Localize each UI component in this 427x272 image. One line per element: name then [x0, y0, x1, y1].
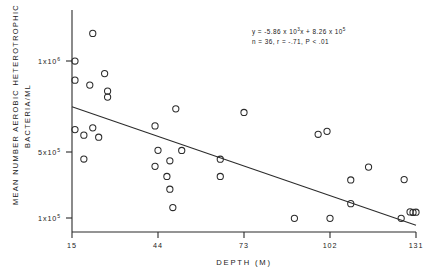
- data-point: [217, 173, 223, 179]
- y-tick-label-2: 1x105: [38, 213, 61, 223]
- y-axis-label: MEAN NUMBER AEROBIC HETEROTROPHIC BACTER…: [11, 4, 32, 205]
- data-point: [217, 156, 223, 162]
- regression-annotation: y = -5.86 x 103x + 8.26 x 105 n = 36, r …: [252, 27, 346, 45]
- data-point: [90, 30, 96, 36]
- data-point: [152, 163, 158, 169]
- annotation-equation: y = -5.86 x 103x + 8.26 x 105: [252, 27, 346, 36]
- data-point: [401, 177, 407, 183]
- data-point: [241, 109, 247, 115]
- x-tick-label-2: 73: [239, 241, 249, 250]
- x-tick-label-4: 131: [409, 241, 424, 250]
- data-point: [152, 123, 158, 129]
- data-point: [173, 106, 179, 112]
- y-tick-labels: 1x106 5x105 1x105: [38, 56, 61, 223]
- y-axis-label-line1: MEAN NUMBER AEROBIC HETEROTROPHIC: [11, 4, 20, 205]
- data-point: [348, 177, 354, 183]
- y-axis-ticks: [66, 61, 72, 218]
- x-tick-label-3: 102: [323, 241, 338, 250]
- data-point: [164, 173, 170, 179]
- data-point: [155, 147, 161, 153]
- y-tick-label-0: 1x106: [38, 56, 61, 66]
- x-tick-label-1: 44: [153, 241, 163, 250]
- data-point: [96, 134, 102, 140]
- x-tick-labels: 15 44 73 102 131: [67, 241, 423, 250]
- data-points-layer: [72, 30, 419, 221]
- data-point: [81, 156, 87, 162]
- data-point: [90, 125, 96, 131]
- data-point: [365, 164, 371, 170]
- data-point: [324, 128, 330, 134]
- data-point: [170, 204, 176, 210]
- data-point: [291, 215, 297, 221]
- regression-line: [72, 107, 416, 226]
- annotation-stats: n = 36, r = -.71, P < .01: [252, 38, 329, 45]
- data-point: [104, 88, 110, 94]
- data-point: [72, 58, 78, 64]
- scatter-plot: MEAN NUMBER AEROBIC HETEROTROPHIC BACTER…: [0, 0, 427, 272]
- data-point: [102, 70, 108, 76]
- data-point: [87, 82, 93, 88]
- y-tick-label-1: 5x105: [38, 147, 61, 157]
- x-axis-label: DEPTH (M): [216, 258, 271, 267]
- data-point: [72, 77, 78, 83]
- data-point: [104, 94, 110, 100]
- x-axis-ticks: [72, 232, 416, 238]
- x-tick-label-0: 15: [67, 241, 77, 250]
- data-point: [167, 186, 173, 192]
- data-point: [179, 147, 185, 153]
- data-point: [81, 132, 87, 138]
- data-point: [72, 126, 78, 132]
- data-point: [167, 158, 173, 164]
- regression-line-layer: [72, 107, 416, 226]
- y-axis-label-line2: BACTERIA/ML: [23, 84, 32, 148]
- figure-container: MEAN NUMBER AEROBIC HETEROTROPHIC BACTER…: [0, 0, 427, 272]
- data-point: [327, 215, 333, 221]
- data-point: [315, 131, 321, 137]
